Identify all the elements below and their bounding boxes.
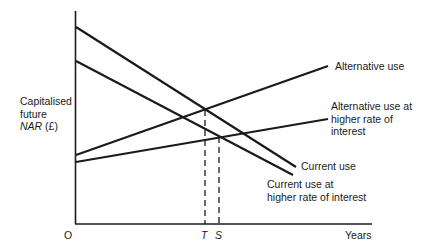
- y-axis-label-line2: future: [20, 108, 72, 121]
- t-marker-label: T: [201, 229, 207, 242]
- label-alternative-use-higher-rate: Alternative use at higher rate of intere…: [331, 100, 412, 138]
- y-axis-label-line3: NAR (£): [20, 120, 72, 133]
- label-current-use-higher-rate: Current use at higher rate of interest: [267, 178, 366, 203]
- label-alt-high-line2: higher rate of: [331, 113, 412, 126]
- y-axis-label-line1: Capitalised: [20, 95, 72, 108]
- y-axis-label-unit: (£): [42, 120, 58, 132]
- label-alternative-use: Alternative use: [335, 60, 404, 73]
- x-axis-label: Years: [345, 229, 371, 242]
- y-axis-label: Capitalised future NAR (£): [20, 95, 72, 133]
- line-current-use: [76, 27, 296, 167]
- label-current-use: Current use: [301, 160, 356, 173]
- label-cur-high-line1: Current use at: [267, 178, 366, 191]
- label-cur-high-line2: higher rate of interest: [267, 191, 366, 204]
- y-axis-label-nar: NAR: [20, 120, 42, 132]
- label-alt-high-line3: interest: [331, 125, 412, 138]
- line-current-use-higher-rate: [76, 61, 293, 175]
- s-marker-label: S: [215, 229, 222, 242]
- origin-label: O: [64, 229, 72, 242]
- line-alternative-use: [76, 66, 328, 155]
- label-alt-high-line1: Alternative use at: [331, 100, 412, 113]
